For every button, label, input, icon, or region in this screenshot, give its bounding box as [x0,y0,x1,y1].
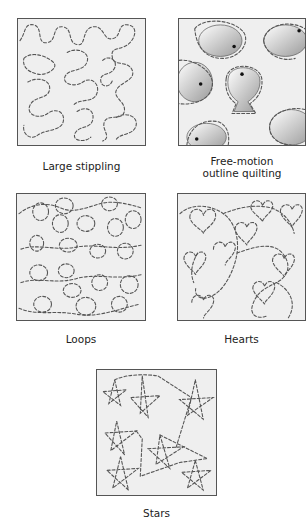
panel-hearts [177,193,306,321]
label-free-motion-outline-quilting: Free-motion outline quilting [178,155,306,179]
label-stars: Stars [96,507,217,518]
hearts-pattern-icon [178,194,305,320]
loops-pattern-icon [17,194,145,320]
stars-pattern-icon [97,370,216,495]
panel-loops [16,193,146,321]
label-loops: Loops [16,333,146,345]
label-hearts: Hearts [177,333,306,345]
panel-large-stippling [17,18,146,146]
fish-outline-pattern-icon [179,19,305,145]
panel-free-motion-outline-quilting [178,18,306,146]
label-large-stippling: Large stippling [17,160,146,172]
panel-stars [96,369,217,496]
stippling-pattern-icon [18,19,145,145]
label-line-2: outline quilting [178,167,306,179]
label-line-1: Free-motion [178,155,306,167]
